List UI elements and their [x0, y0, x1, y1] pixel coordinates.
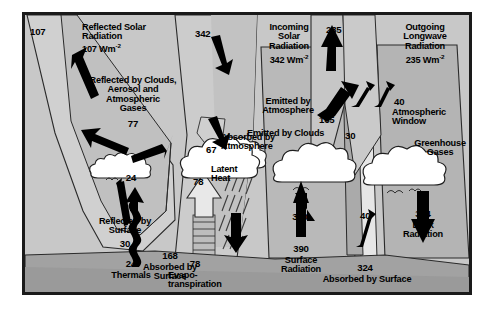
label-greenhouse-gases-title: Greenhouse Gases: [401, 139, 472, 158]
reflected-solar-exp: -2: [116, 42, 121, 49]
energy-budget-diagram: 107 Reflected Solar Radiation 107 Wm-2 R…: [0, 0, 497, 310]
diagram-frame: 107 Reflected Solar Radiation 107 Wm-2 R…: [22, 12, 472, 295]
label-emitted-atmosphere-flux: 165: [319, 115, 334, 125]
label-reflected-solar-value: 107 Wm-2: [82, 45, 121, 54]
label-thermals-flux: 24: [111, 259, 151, 269]
label-atmospheric-window-flux: 40: [394, 97, 404, 107]
label-atmospheric-window-title: Atmospheric Window: [392, 108, 446, 127]
label-evapotranspiration-flux: 78: [175, 259, 215, 269]
label-surface-radiation-up-flux: 350: [280, 212, 320, 222]
label-reflected-surface-title: Reflected by Surface: [81, 217, 169, 236]
label-latent-heat-title: Latent Heat: [211, 165, 237, 184]
label-outgoing-longwave-flux: 235: [326, 25, 341, 35]
label-evapotranspiration-title: Evapo- transpiration: [168, 271, 222, 290]
label-outgoing-longwave-title: Outgoing Longwave Radiation: [383, 23, 467, 51]
label-outgoing-longwave-value: 235 Wm-2: [383, 56, 467, 65]
label-latent-heat-flux: 78: [193, 177, 203, 187]
label-emitted-atmosphere-title: Emitted by Atmosphere: [252, 97, 324, 116]
label-absorbed-surface-lw-flux: 324: [343, 263, 387, 273]
label-back-radiation-title: Back Radiation: [389, 221, 457, 240]
label-incoming-solar-value: 342 Wm-2: [253, 56, 325, 65]
incoming-solar-exp: -2: [303, 53, 308, 60]
label-reflected-surface-flux: 30: [81, 239, 169, 249]
label-atmospheric-window-lower-flux: 40: [360, 211, 370, 221]
label-absorbed-surface-lw-title: Absorbed by Surface: [311, 275, 423, 284]
label-reflected-solar-flux: 107: [30, 27, 45, 37]
label-thermals-top-flux: 24: [111, 173, 151, 183]
label-emitted-clouds-title: Emitted by Clouds: [247, 129, 324, 138]
label-absorbed-atmosphere-flux: 67: [206, 145, 216, 155]
label-emitted-clouds-flux: 30: [345, 131, 355, 141]
label-incoming-solar-flux: 342: [195, 29, 210, 39]
label-surface-radiation-title: Surface Radiation: [265, 256, 337, 275]
label-reflected-clouds-flux: 77: [72, 119, 194, 129]
outgoing-longwave-exp: -2: [439, 53, 444, 60]
label-back-radiation-flux: 324: [401, 209, 445, 219]
outgoing-longwave-value-text: 235 Wm: [406, 55, 440, 65]
reflected-solar-value-text: 107 Wm: [82, 44, 116, 54]
label-thermals-title: Thermals: [101, 271, 161, 280]
label-reflected-solar-title: Reflected Solar Radiation: [82, 23, 146, 42]
label-reflected-clouds-title: Reflected by Clouds, Aerosol and Atmosph…: [72, 76, 194, 114]
label-surface-radiation-flux: 390: [273, 244, 329, 254]
label-incoming-solar-title: Incoming Solar Radiation: [253, 23, 325, 51]
incoming-solar-value-text: 342 Wm: [270, 55, 304, 65]
